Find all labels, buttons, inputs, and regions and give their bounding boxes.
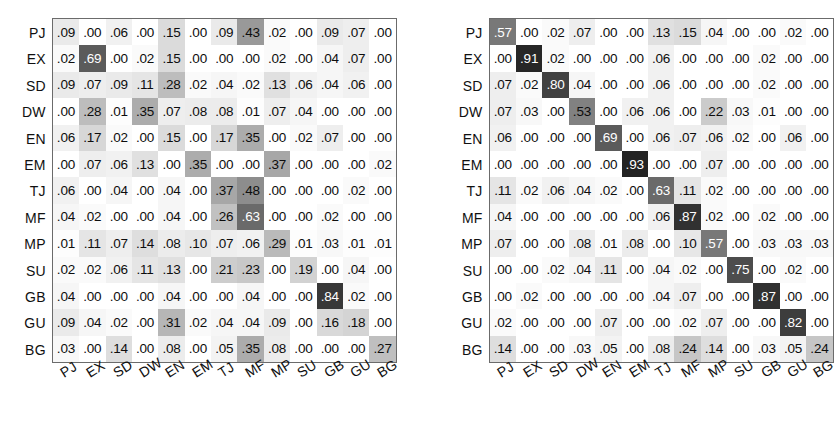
matrix-cell: .00 [806,72,832,98]
matrix-row: .00.28.01.35.07.08.08.01.07.04.00.00.00 [53,98,396,124]
matrix-cell: .15 [158,125,184,151]
matrix-row: .07.02.80.04.00.00.06.00.00.00.02.00.00 [490,72,833,98]
matrix-cell: .08 [622,230,648,256]
matrix-cell: .14 [490,336,516,362]
matrix-cell: .11 [674,177,700,203]
matrix-row: .57.00.02.07.00.00.13.15.04.00.00.02.00 [490,19,833,45]
matrix-cell: .02 [290,125,316,151]
matrix-cell: .03 [753,230,779,256]
row-label-gu: GU [459,310,489,336]
row-label-mp: MP [22,231,52,257]
matrix-cell: .06 [701,125,727,151]
matrix-cell: .00 [343,125,369,151]
matrix-cell: .02 [343,177,369,203]
matrix-cell: .00 [490,151,516,177]
matrix-cell: .01 [53,230,79,256]
matrix-cell: .00 [516,19,542,45]
matrix-cell: .00 [595,151,621,177]
matrix-cell: .00 [185,177,211,203]
row-label-ex: EX [459,46,489,72]
matrix-cell: .08 [569,230,595,256]
matrix-cell: .00 [290,151,316,177]
matrix-cell: .00 [106,45,132,71]
matrix-cell: .00 [132,309,158,335]
matrix-cell: .00 [79,177,105,203]
matrix-cell: .00 [317,177,343,203]
matrix-cell: .00 [211,45,237,71]
matrix-cell: .09 [211,19,237,45]
matrix-cell: .00 [569,45,595,71]
matrix-cell: .35 [185,151,211,177]
row-label-dw: DW [459,99,489,125]
matrix-cell: .00 [516,230,542,256]
matrix-cell: .04 [53,204,79,230]
matrix-cell: .09 [264,309,290,335]
matrix-cell: .10 [674,230,700,256]
matrix-cell: .00 [264,177,290,203]
matrix-cell: .02 [595,177,621,203]
matrix-cell: .00 [211,283,237,309]
matrix-cell: .00 [648,230,674,256]
matrix-cell: .06 [53,125,79,151]
matrix-cell: .93 [622,151,648,177]
matrix-cell: .02 [53,45,79,71]
matrix-cell: .57 [701,230,727,256]
matrix-cell: .00 [727,309,753,335]
matrix-cell: .00 [674,45,700,71]
matrix-cell: .00 [132,283,158,309]
matrix-cell: .75 [727,257,753,283]
matrix-row: .00.02.00.00.00.00.04.07.00.00.87.00.00 [490,283,833,309]
matrix-cell: .00 [490,257,516,283]
matrix-cell: .11 [132,257,158,283]
matrix-cell: .00 [185,257,211,283]
matrix-cell: .00 [806,177,832,203]
matrix-cell: .00 [753,151,779,177]
matrix-cell: .00 [290,19,316,45]
matrix-cell: .13 [264,72,290,98]
matrix-cell: .00 [701,283,727,309]
matrix-cell: .04 [569,257,595,283]
matrix-row: .06.00.00.00.69.00.06.07.06.02.00.06.00 [490,125,833,151]
matrix-cell: .00 [542,336,568,362]
matrix-cell: .06 [343,72,369,98]
matrix-cell: .00 [106,283,132,309]
matrix-cell: .14 [132,230,158,256]
matrix-cell: .00 [237,45,263,71]
right-matrix: .57.00.02.07.00.00.13.15.04.00.00.02.00.… [489,18,834,363]
matrix-cell: .00 [780,45,806,71]
matrix-cell: .00 [727,19,753,45]
matrix-cell: .11 [132,72,158,98]
matrix-cell: .00 [542,230,568,256]
matrix-cell: .02 [79,204,105,230]
matrix-cell: .00 [648,151,674,177]
matrix-cell: .00 [622,19,648,45]
matrix-cell: .00 [753,309,779,335]
matrix-cell: .02 [343,283,369,309]
matrix-cell: .02 [542,19,568,45]
matrix-cell: .00 [727,230,753,256]
matrix-cell: .00 [264,204,290,230]
matrix-cell: .03 [317,230,343,256]
matrix-cell: .06 [780,125,806,151]
matrix-cell: .07 [158,98,184,124]
matrix-cell: .06 [648,98,674,124]
matrix-cell: .06 [542,177,568,203]
matrix-cell: .00 [369,72,395,98]
matrix-cell: .04 [317,72,343,98]
matrix-cell: .29 [264,230,290,256]
row-label-em: EM [22,152,52,178]
matrix-cell: .00 [369,19,395,45]
matrix-cell: .00 [290,336,316,362]
row-label-bg: BG [22,337,52,363]
matrix-cell: .07 [701,309,727,335]
matrix-cell: .02 [369,151,395,177]
matrix-cell: .09 [106,72,132,98]
matrix-cell: .00 [595,45,621,71]
matrix-cell: .09 [53,309,79,335]
matrix-cell: .04 [237,283,263,309]
matrix-row: .11.02.06.04.02.00.63.11.02.00.00.00.00 [490,177,833,203]
matrix-cell: .07 [79,72,105,98]
matrix-cell: .07 [343,45,369,71]
matrix-cell: .00 [569,309,595,335]
matrix-cell: .01 [753,98,779,124]
